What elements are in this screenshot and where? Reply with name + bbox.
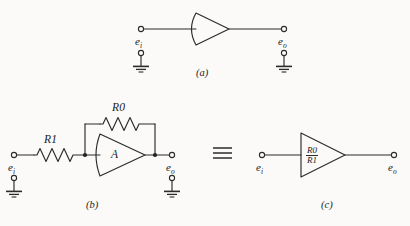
- panel-c-gain-fraction: R0 R1: [306, 146, 318, 166]
- panel-b-input-terminal: [11, 152, 16, 157]
- panel-b-input-label: ei: [8, 162, 15, 176]
- panel-b-resistor-r1: [34, 149, 85, 162]
- panel-a-ground-right-terminal: [281, 50, 286, 55]
- panel-b-amplifier-symbol: [96, 134, 145, 176]
- panel-c-output-label: eo: [388, 162, 397, 176]
- panel-c-caption: (c): [321, 200, 333, 211]
- panel-b-ground-left: [6, 175, 22, 197]
- equivalence-symbol: [213, 148, 232, 158]
- panel-c-input-terminal: [259, 152, 264, 157]
- panel-b-caption: (b): [86, 200, 98, 211]
- panel-a-input-terminal: [138, 26, 143, 31]
- panel-a-output-label: eo: [278, 36, 287, 50]
- panel-a-caption: (a): [196, 68, 208, 79]
- panel-c-input-label: ei: [256, 162, 263, 176]
- panel-a-ground-right: [276, 50, 292, 72]
- panel-b-output-label: eo: [166, 162, 175, 176]
- panel-a-output-terminal: [281, 26, 286, 31]
- circuit-drawing: [0, 0, 410, 226]
- panel-b-circuit: [6, 118, 180, 198]
- panel-b-resistor-r0: [100, 118, 155, 131]
- panel-b-r0-label: R0: [112, 102, 125, 114]
- panel-b-r1-label: R1: [44, 134, 57, 146]
- panel-a-circuit: [133, 13, 292, 72]
- circuit-figure: ei eo (a) ei eo R1 R0 A (b) ei eo R0 R1 …: [0, 0, 410, 226]
- panel-a-input-label: ei: [135, 36, 142, 50]
- panel-a-amplifier-symbol: [192, 13, 230, 45]
- panel-c-gain-denominator: R1: [306, 155, 318, 165]
- panel-b-output-terminal: [169, 152, 174, 157]
- panel-b-amplifier-label: A: [111, 149, 118, 161]
- panel-b-ground-right: [164, 175, 180, 197]
- panel-c-output-terminal: [391, 152, 396, 157]
- panel-c-circuit: [259, 133, 396, 177]
- panel-a-ground-left-terminal: [138, 50, 143, 55]
- panel-a-ground-left: [133, 50, 149, 72]
- panel-c-gain-numerator: R0: [306, 146, 318, 155]
